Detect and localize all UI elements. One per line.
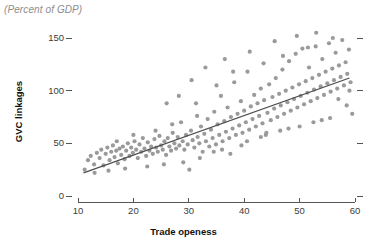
data-point bbox=[167, 144, 171, 148]
data-point bbox=[322, 93, 326, 97]
data-point bbox=[278, 129, 282, 133]
data-point bbox=[330, 66, 334, 70]
data-point bbox=[345, 72, 349, 76]
data-point bbox=[347, 89, 351, 93]
data-point bbox=[201, 150, 205, 154]
data-point bbox=[320, 57, 324, 61]
data-point bbox=[220, 148, 224, 152]
data-point bbox=[315, 96, 319, 100]
data-point bbox=[261, 61, 265, 65]
data-point bbox=[242, 109, 246, 113]
data-point bbox=[287, 59, 291, 63]
data-point bbox=[126, 141, 130, 145]
data-point bbox=[348, 80, 352, 84]
data-point bbox=[109, 150, 113, 154]
data-point bbox=[229, 115, 233, 119]
data-point bbox=[257, 114, 261, 118]
data-point bbox=[131, 133, 135, 137]
data-point bbox=[298, 124, 302, 128]
data-point bbox=[119, 153, 123, 157]
x-tick-label: 30 bbox=[174, 205, 204, 216]
data-point bbox=[331, 36, 335, 40]
data-point bbox=[220, 139, 224, 143]
data-point bbox=[342, 83, 346, 87]
data-point bbox=[181, 160, 185, 164]
data-point bbox=[343, 60, 347, 64]
x-tick-label: 40 bbox=[229, 205, 259, 216]
data-point bbox=[151, 152, 155, 156]
data-point bbox=[98, 156, 102, 160]
data-point bbox=[146, 140, 150, 144]
data-point bbox=[267, 82, 271, 86]
data-point bbox=[337, 63, 341, 67]
data-point bbox=[317, 73, 321, 77]
data-point bbox=[123, 167, 127, 171]
data-point bbox=[93, 171, 97, 175]
data-point bbox=[235, 112, 239, 116]
data-point bbox=[186, 142, 190, 146]
data-point bbox=[162, 162, 166, 166]
data-point bbox=[166, 136, 170, 140]
data-point bbox=[217, 133, 221, 137]
data-point bbox=[196, 135, 200, 139]
data-point bbox=[282, 112, 286, 116]
data-point bbox=[214, 142, 218, 146]
data-point bbox=[86, 158, 90, 162]
data-point bbox=[124, 149, 128, 153]
data-point bbox=[259, 135, 263, 139]
data-point bbox=[248, 50, 252, 54]
data-point bbox=[281, 54, 285, 58]
data-point bbox=[121, 144, 125, 148]
data-point bbox=[332, 78, 336, 82]
data-point bbox=[300, 46, 304, 50]
data-point bbox=[314, 31, 318, 35]
data-point bbox=[227, 136, 231, 140]
data-point bbox=[211, 136, 215, 140]
data-point bbox=[295, 105, 299, 109]
data-point bbox=[290, 85, 294, 89]
data-point bbox=[212, 150, 216, 154]
data-point bbox=[310, 76, 314, 80]
data-point bbox=[275, 115, 279, 119]
data-point bbox=[302, 102, 306, 106]
x-tick-label: 50 bbox=[285, 205, 315, 216]
data-point bbox=[328, 116, 332, 120]
data-point bbox=[230, 126, 234, 130]
data-point bbox=[164, 153, 168, 157]
data-point bbox=[228, 152, 232, 156]
y-axis-label: GVC linkages bbox=[13, 72, 24, 152]
data-point bbox=[273, 39, 277, 43]
data-point bbox=[232, 80, 236, 84]
data-point bbox=[198, 156, 202, 160]
data-point bbox=[309, 99, 313, 103]
data-point bbox=[240, 131, 244, 135]
trendline bbox=[84, 78, 350, 173]
data-point bbox=[112, 155, 116, 159]
data-point bbox=[264, 131, 268, 135]
data-point bbox=[157, 134, 161, 138]
scatter-chart: (Percent of GDP) 050100150 102030405060 … bbox=[0, 0, 367, 242]
data-point bbox=[325, 81, 329, 85]
data-point bbox=[270, 95, 274, 99]
data-point bbox=[339, 75, 343, 79]
data-point bbox=[289, 109, 293, 113]
data-point bbox=[307, 65, 311, 69]
data-point bbox=[279, 103, 283, 107]
data-point bbox=[223, 57, 227, 61]
data-point bbox=[152, 137, 156, 141]
data-point bbox=[115, 139, 119, 143]
data-point bbox=[350, 112, 354, 116]
data-point bbox=[255, 101, 259, 105]
data-point bbox=[245, 70, 249, 74]
y-tick-label: 150 bbox=[48, 32, 64, 43]
data-point bbox=[171, 131, 175, 135]
data-point bbox=[212, 110, 216, 114]
data-point bbox=[224, 130, 228, 134]
data-point bbox=[262, 98, 266, 102]
data-point bbox=[156, 150, 160, 154]
data-point bbox=[231, 70, 235, 74]
data-point bbox=[104, 152, 108, 156]
data-point bbox=[259, 86, 263, 90]
data-point bbox=[99, 148, 103, 152]
data-point bbox=[187, 168, 191, 172]
